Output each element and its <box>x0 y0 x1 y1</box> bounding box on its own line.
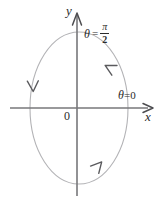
equals-sign: = <box>92 28 98 39</box>
x-axis-label: x <box>145 110 151 123</box>
y-axis-label: y <box>66 4 72 17</box>
theta-symbol: θ <box>84 28 90 40</box>
fraction-denominator: 2 <box>100 34 109 45</box>
pi-over-two-fraction: π 2 <box>100 22 109 45</box>
origin-label: 0 <box>64 110 70 122</box>
parametric-ellipse-figure: y x 0 θ=0 θ = π 2 <box>0 0 160 204</box>
fraction-numerator: π <box>100 22 109 33</box>
theta-zero-value: 0 <box>130 89 136 101</box>
direction-arrow-lower-right <box>91 158 106 173</box>
figure-canvas <box>0 0 160 204</box>
theta-half-pi-annotation: θ = π 2 <box>84 22 109 45</box>
theta-zero-annotation: θ=0 <box>118 89 136 101</box>
direction-arrow-upper-right <box>103 61 117 76</box>
